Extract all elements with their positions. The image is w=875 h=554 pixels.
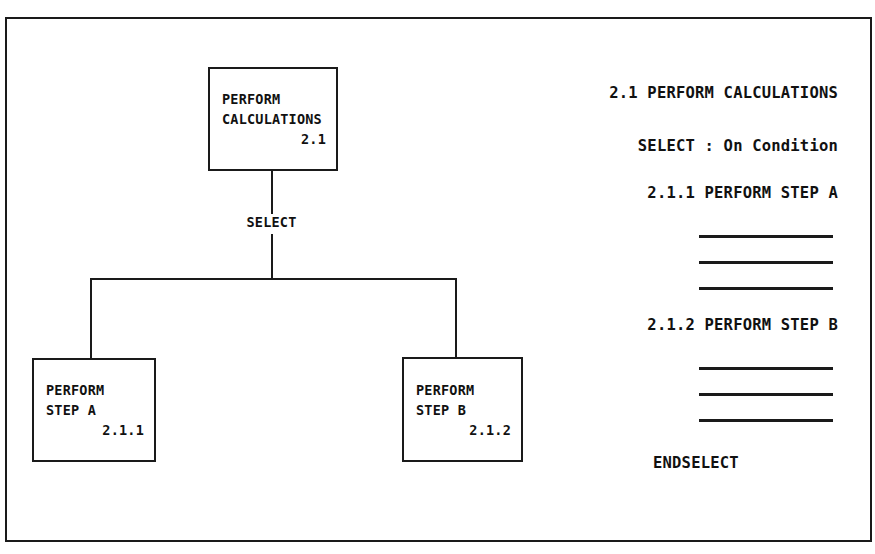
pseudocode-line-perform-calculations: 2.1 PERFORM CALCULATIONS xyxy=(609,84,838,102)
pseudocode-rule-a-2 xyxy=(699,261,833,264)
pseudocode-rule-b-1 xyxy=(699,367,833,370)
pseudocode-line-step-a: 2.1.1 PERFORM STEP A xyxy=(647,184,838,202)
process-box-root-text: PERFORM CALCULATIONS 2.1 xyxy=(222,89,326,149)
pseudocode-column: 2.1 PERFORM CALCULATIONS SELECT : On Con… xyxy=(560,60,860,490)
process-box-step-a-number: 2.1.1 xyxy=(46,420,144,440)
connector-drop-right xyxy=(455,278,457,358)
process-box-step-b[interactable]: PERFORM STEP B 2.1.2 xyxy=(402,357,523,462)
process-box-step-b-number: 2.1.2 xyxy=(416,420,511,440)
process-box-root-line2: CALCULATIONS xyxy=(222,109,326,129)
pseudocode-rule-a-1 xyxy=(699,235,833,238)
process-box-step-a[interactable]: PERFORM STEP A 2.1.1 xyxy=(32,358,156,462)
pseudocode-rule-b-3 xyxy=(699,419,833,422)
connector-drop-left xyxy=(90,278,92,359)
process-box-step-a-text: PERFORM STEP A 2.1.1 xyxy=(46,380,144,440)
process-box-root[interactable]: PERFORM CALCULATIONS 2.1 xyxy=(208,67,338,171)
process-box-step-b-line1: PERFORM xyxy=(416,380,511,400)
pseudocode-line-endselect: ENDSELECT xyxy=(653,454,739,472)
connector-label-select: SELECT xyxy=(0,214,543,230)
pseudocode-line-select: SELECT : On Condition xyxy=(638,137,838,155)
connector-select-to-split xyxy=(271,234,273,279)
process-box-root-line1: PERFORM xyxy=(222,89,326,109)
process-box-step-a-line1: PERFORM xyxy=(46,380,144,400)
diagram-canvas: PERFORM CALCULATIONS 2.1 SELECT PERFORM … xyxy=(0,0,875,554)
process-box-step-b-text: PERFORM STEP B 2.1.2 xyxy=(416,380,511,440)
process-box-step-a-line2: STEP A xyxy=(46,400,144,420)
pseudocode-rule-a-3 xyxy=(699,287,833,290)
process-box-step-b-line2: STEP B xyxy=(416,400,511,420)
process-box-root-number: 2.1 xyxy=(222,129,326,149)
connector-split-bar xyxy=(90,278,457,280)
pseudocode-line-step-b: 2.1.2 PERFORM STEP B xyxy=(647,316,838,334)
connector-root-to-select xyxy=(271,171,273,214)
pseudocode-rule-b-2 xyxy=(699,393,833,396)
